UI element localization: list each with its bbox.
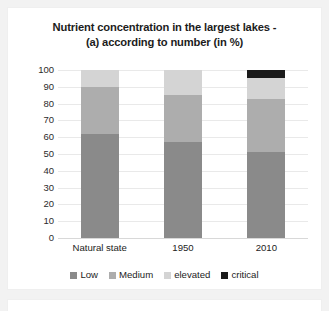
- legend-swatch-icon: [109, 272, 116, 279]
- legend-swatch-icon: [70, 272, 77, 279]
- gridline: [58, 238, 308, 239]
- bar-segment-medium[interactable]: [247, 99, 285, 153]
- bar-column-2010[interactable]: [247, 70, 285, 238]
- bar-column-natural-state[interactable]: [81, 70, 119, 238]
- chart-legend: LowMediumelevatedcritical: [8, 270, 321, 280]
- y-axis-tick-label: 100: [20, 65, 54, 75]
- legend-label: critical: [231, 270, 258, 280]
- chart-screenshot: Nutrient concentration in the largest la…: [0, 0, 329, 311]
- x-axis-tick-label: Natural state: [58, 242, 141, 253]
- bottom-panel: [8, 300, 321, 311]
- x-axis-tick-label: 1950: [141, 242, 224, 253]
- legend-item-medium[interactable]: Medium: [109, 270, 153, 280]
- bar-series-container: [58, 70, 308, 238]
- y-axis-tick-label: 0: [20, 233, 54, 243]
- bar-segment-medium[interactable]: [164, 95, 202, 142]
- y-axis-tick-label: 80: [20, 99, 54, 109]
- x-axis: Natural state19502010: [58, 242, 308, 253]
- y-axis-tick-label: 40: [20, 166, 54, 176]
- y-axis: 1009080706050403020100: [20, 64, 54, 244]
- legend-swatch-icon: [221, 272, 228, 279]
- y-axis-tick-label: 60: [20, 132, 54, 142]
- bar-segment-low[interactable]: [81, 134, 119, 238]
- y-axis-tick-label: 50: [20, 149, 54, 159]
- chart-title-line-2: (a) according to number (in %): [18, 35, 311, 50]
- legend-item-critical[interactable]: critical: [221, 270, 258, 280]
- bar-segment-elevated[interactable]: [247, 78, 285, 98]
- plot-area: [58, 70, 308, 238]
- y-axis-tick-label: 70: [20, 115, 54, 125]
- legend-item-low[interactable]: Low: [70, 270, 98, 280]
- plot-wrapper: 1009080706050403020100 Natural state1950…: [8, 64, 321, 244]
- legend-swatch-icon: [164, 272, 171, 279]
- bar-segment-critical[interactable]: [247, 70, 285, 78]
- chart-card: Nutrient concentration in the largest la…: [8, 8, 321, 289]
- bar-segment-low[interactable]: [164, 142, 202, 238]
- bar-segment-medium[interactable]: [81, 87, 119, 134]
- chart-title: Nutrient concentration in the largest la…: [18, 20, 311, 50]
- chart-title-line-1: Nutrient concentration in the largest la…: [53, 21, 277, 33]
- legend-label: elevated: [174, 270, 210, 280]
- y-axis-tick-label: 20: [20, 199, 54, 209]
- y-axis-tick-label: 10: [20, 216, 54, 226]
- bar-column-1950[interactable]: [164, 70, 202, 238]
- y-axis-tick-label: 90: [20, 82, 54, 92]
- legend-item-elevated[interactable]: elevated: [164, 270, 210, 280]
- legend-label: Medium: [119, 270, 153, 280]
- bar-segment-elevated[interactable]: [81, 70, 119, 87]
- bar-segment-elevated[interactable]: [164, 70, 202, 95]
- y-axis-tick-label: 30: [20, 183, 54, 193]
- x-axis-tick-label: 2010: [225, 242, 308, 253]
- bar-segment-low[interactable]: [247, 152, 285, 238]
- legend-label: Low: [80, 270, 98, 280]
